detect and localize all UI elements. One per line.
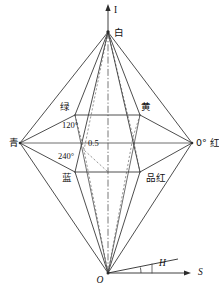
label-cyan: 青 xyxy=(9,137,19,148)
intensity-axis-arrowhead xyxy=(105,4,110,11)
lower-edge-to-red xyxy=(108,143,192,273)
lower-edge-to-magenta xyxy=(108,172,140,273)
label-blue: 蓝 xyxy=(62,172,72,183)
origin-label: O xyxy=(97,275,104,285)
vertex-dot-red xyxy=(191,142,194,145)
hue-ray-line xyxy=(108,259,178,273)
vertex-dot-cyan xyxy=(19,142,22,145)
label-mid-value: 0.5 xyxy=(88,138,99,148)
intensity-axis-label: I xyxy=(114,5,117,15)
outer-cone-group xyxy=(20,32,192,273)
intensity-axis-group xyxy=(105,4,110,273)
hue-angle-label: H xyxy=(158,258,167,268)
label-white-apex: 白 xyxy=(114,27,124,38)
label-yellow: 黄 xyxy=(141,101,151,112)
hidden-edge-back-right xyxy=(108,32,133,273)
hex-edge-red-magenta xyxy=(140,143,192,172)
label-magenta: 品红 xyxy=(146,172,166,183)
hsi-color-model-figure: I 白 绿 黄 青 0° 红 蓝 品红 120° 240° 0.5 O H S xyxy=(0,0,219,291)
mid-hexagon-group xyxy=(19,30,194,274)
label-green: 绿 xyxy=(60,101,70,112)
hidden-edges-group xyxy=(75,32,140,273)
hex-edge-yellow-red xyxy=(140,115,192,143)
saturation-axis-arrowhead xyxy=(184,271,191,276)
label-hue-120: 120° xyxy=(62,120,78,130)
hue-angle-arc xyxy=(140,268,141,274)
hsi-double-hexcone-svg: I 白 绿 黄 青 0° 红 蓝 品红 120° 240° 0.5 O H S xyxy=(0,0,219,291)
lower-edge-to-yellow xyxy=(108,115,140,273)
vertex-dot-white-apex xyxy=(106,30,109,33)
label-hue-240: 240° xyxy=(58,151,74,161)
saturation-axis-group xyxy=(108,259,191,276)
saturation-axis-label: S xyxy=(198,267,203,277)
lower-edge-to-blue xyxy=(75,172,108,273)
label-red: 0° 红 xyxy=(196,137,219,148)
